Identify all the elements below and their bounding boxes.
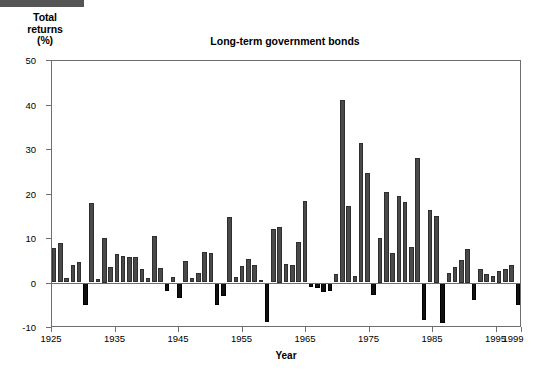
x-tick-mark-1935 (115, 327, 116, 332)
x-tick-label-1999: 1999 (502, 333, 523, 344)
bar-1941 (152, 236, 157, 283)
y-tick-label-40: 40 (0, 99, 44, 110)
bar-1926 (58, 243, 63, 282)
bar-1974 (359, 143, 364, 283)
bar-1986 (434, 216, 439, 283)
bar-1982 (409, 247, 414, 283)
bar-1975 (365, 173, 370, 282)
chart-title: Long-term government bonds (50, 35, 520, 47)
x-tick-mark-1945 (178, 327, 179, 332)
bar-1979 (390, 253, 395, 283)
bar-1929 (77, 262, 82, 282)
bar-1949 (202, 252, 207, 283)
y-tick-label-10: 10 (0, 233, 44, 244)
x-tick-mark-1955 (242, 327, 243, 332)
bar-1961 (277, 227, 282, 283)
header-strip (0, 0, 84, 7)
x-tick-mark-1975 (369, 327, 370, 332)
bar-1993 (478, 269, 483, 282)
bar-1992 (472, 283, 477, 301)
bar-1945 (177, 283, 182, 299)
bar-1963 (290, 265, 295, 283)
bar-1978 (384, 192, 389, 282)
bar-1996 (497, 271, 502, 282)
x-tick-label-1975: 1975 (358, 333, 379, 344)
bar-1984 (422, 283, 427, 321)
bar-1987 (440, 283, 445, 323)
bar-1942 (158, 268, 163, 282)
bar-1971 (340, 100, 345, 282)
bar-1937 (127, 257, 132, 283)
bar-1950 (209, 253, 214, 282)
y-tick-mark-50 (46, 60, 51, 61)
bar-1972 (346, 206, 351, 283)
bars-layer (51, 60, 521, 327)
bar-1997 (503, 269, 508, 282)
bar-1936 (121, 256, 126, 282)
x-tick-mark-1965 (305, 327, 306, 332)
y-axis-caption-line1: Total (12, 12, 78, 24)
bar-1948 (196, 273, 201, 282)
bar-1977 (378, 238, 383, 283)
y-tick-mark-30 (46, 149, 51, 150)
y-tick-label--10: -10 (0, 322, 44, 333)
bar-1943 (165, 283, 170, 292)
x-tick-label-1985: 1985 (422, 333, 443, 344)
bar-1991 (465, 249, 470, 282)
y-tick-label-20: 20 (0, 188, 44, 199)
bar-1952 (221, 283, 226, 296)
bar-1925 (52, 248, 57, 283)
bar-1970 (334, 274, 339, 282)
y-tick-mark-40 (46, 105, 51, 106)
bar-1998 (509, 265, 514, 283)
bar-1955 (240, 266, 245, 282)
bar-1953 (227, 217, 232, 283)
x-tick-label-1935: 1935 (104, 333, 125, 344)
bar-1931 (89, 203, 94, 282)
bar-1928 (71, 265, 76, 283)
bar-1968 (321, 283, 326, 293)
y-tick-label-0: 0 (0, 277, 44, 288)
bar-1980 (397, 196, 402, 283)
bar-1990 (459, 260, 464, 282)
bar-1946 (183, 261, 188, 283)
bar-1959 (265, 283, 270, 322)
bar-1962 (284, 264, 289, 283)
bar-1989 (453, 267, 458, 282)
y-tick-label-30: 30 (0, 144, 44, 155)
bar-1933 (102, 238, 107, 283)
x-tick-mark-1925 (51, 327, 52, 332)
bar-1930 (83, 283, 88, 305)
x-tick-mark-1995 (496, 327, 497, 332)
bar-1935 (115, 254, 120, 282)
bar-1995 (491, 276, 496, 283)
x-tick-label-1965: 1965 (294, 333, 315, 344)
bar-1981 (403, 202, 408, 282)
y-tick-label-50: 50 (0, 55, 44, 66)
bar-1969 (328, 283, 333, 292)
bar-1956 (246, 259, 251, 283)
x-tick-label-1925: 1925 (40, 333, 61, 344)
bar-1934 (108, 267, 113, 282)
x-tick-mark-1999 (521, 327, 522, 332)
chart-page: Total returns (%) Long-term government b… (0, 0, 548, 379)
bar-1999 (516, 283, 521, 305)
bar-1960 (271, 229, 276, 282)
bar-1985 (428, 210, 433, 282)
x-axis-label: Year (51, 350, 521, 361)
bar-1988 (447, 273, 452, 283)
bar-1939 (140, 269, 145, 282)
bar-1938 (133, 257, 138, 283)
y-tick-mark-10 (46, 238, 51, 239)
y-tick-mark-20 (46, 194, 51, 195)
bar-1965 (303, 201, 308, 282)
zero-line (51, 283, 521, 284)
x-tick-label-1955: 1955 (231, 333, 252, 344)
bar-1994 (484, 274, 489, 283)
x-tick-label-1945: 1945 (167, 333, 188, 344)
x-tick-mark-1985 (432, 327, 433, 332)
bar-1983 (415, 158, 420, 283)
bar-1976 (371, 283, 376, 295)
bar-1951 (215, 283, 220, 305)
bar-1964 (296, 242, 301, 283)
